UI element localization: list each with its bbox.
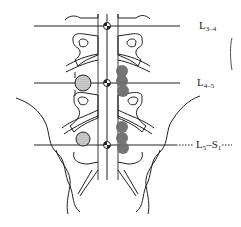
label-l4-5-main: L [197, 76, 204, 88]
label-l5-s1: L5–S1 [196, 139, 221, 152]
target-marker-l3-4 [104, 23, 111, 30]
stippled-marker-l4-5 [75, 75, 91, 91]
label-l3-4-sub: 3–4 [206, 25, 217, 33]
label-l5-s1-sub2: 1 [218, 144, 222, 152]
spine-diagram: L3–4 L4–5 L5–S1 [0, 0, 241, 227]
label-l4-5-sub: 4–5 [204, 82, 215, 90]
label-l3-4: L3–4 [199, 20, 216, 33]
target-marker-l4-5 [104, 80, 111, 87]
spine-drawing [0, 0, 241, 227]
label-l3-4-main: L [199, 19, 206, 31]
label-l5-s1-main: L [196, 138, 203, 150]
stippled-markers [75, 75, 91, 146]
target-marker-l5-s1 [104, 142, 111, 149]
vertebra-top-right [118, 14, 150, 19]
vertebra-top-left [65, 14, 98, 20]
label-l4-5: L4–5 [197, 77, 214, 90]
stippled-marker-l5-s1 [76, 132, 90, 146]
label-l5-s1-dash: –S [206, 138, 218, 150]
